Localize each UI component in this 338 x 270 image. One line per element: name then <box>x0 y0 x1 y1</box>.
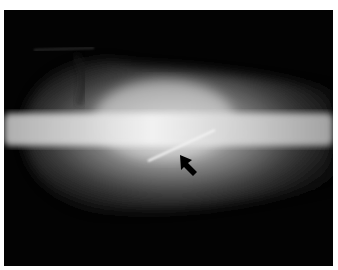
radiograph-image: Lateral X-ray of a small animal body sho… <box>4 10 333 266</box>
spine <box>4 113 333 146</box>
xray-render <box>4 10 333 266</box>
